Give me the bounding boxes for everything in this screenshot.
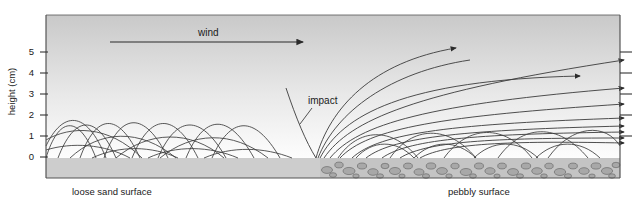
impact-annotation: impact [308, 95, 337, 106]
y-tick-label-4: 4 [22, 67, 34, 78]
air-background [46, 15, 620, 158]
pebbly-surface-label: pebbly surface [448, 186, 510, 197]
y-tick-label-2: 2 [22, 109, 34, 120]
y-tick-label-3: 3 [22, 88, 34, 99]
loose-sand-surface-label: loose sand surface [72, 186, 152, 197]
wind-annotation: wind [198, 27, 219, 38]
y-tick-label-1: 1 [22, 130, 34, 141]
saltation-diagram: height (cm) [0, 0, 638, 209]
y-tick-label-0: 0 [22, 151, 34, 162]
y-tick-label-5: 5 [22, 46, 34, 57]
loose-sand-band [46, 158, 320, 178]
